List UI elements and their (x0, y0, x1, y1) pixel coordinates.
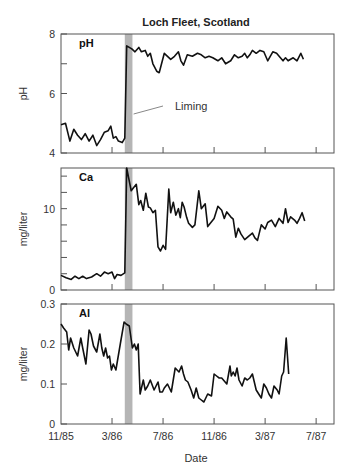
x-axis-label: Date (184, 452, 207, 464)
al-plot-frame (61, 304, 334, 424)
ca-y-axis-label: mg/liter (17, 211, 29, 246)
y-tick-label: 4 (49, 147, 55, 159)
al-y-axis-label: mg/liter (17, 346, 29, 381)
y-tick-label: 0.3 (40, 298, 55, 310)
ph-panel: 468pHpHLiming (17, 28, 334, 159)
chart-figure: Loch Fleet, Scotland 468pHpHLiming 010mg… (0, 0, 351, 473)
ca-plot-frame (61, 168, 334, 290)
ca-panel-label: Ca (79, 171, 94, 183)
liming-band (125, 304, 133, 424)
al-series-line (61, 322, 289, 402)
ca-panel: 010mg/literCa (17, 168, 334, 296)
y-tick-label: 0.1 (40, 378, 55, 390)
x-tick-label: 7/87 (306, 430, 327, 442)
al-panel: 00.10.20.3mg/literAl11/853/867/8611/863/… (17, 298, 334, 442)
ca-series-line (61, 168, 305, 279)
y-tick-label: 8 (49, 28, 55, 40)
liming-annotation: Liming (175, 100, 207, 112)
ph-series-line (61, 46, 303, 146)
liming-annotation-pointer (134, 106, 163, 114)
y-tick-label: 6 (49, 88, 55, 100)
y-tick-label: 0 (49, 418, 55, 430)
y-tick-label: 10 (43, 203, 55, 215)
ph-panel-label: pH (79, 37, 94, 49)
y-tick-label: 0 (49, 284, 55, 296)
chart-title: Loch Fleet, Scotland (142, 16, 250, 28)
y-tick-label: 0.2 (40, 338, 55, 350)
x-tick-label: 7/86 (153, 430, 174, 442)
x-tick-label: 3/86 (102, 430, 123, 442)
ph-y-axis-label: pH (17, 87, 29, 100)
x-tick-label: 11/85 (48, 430, 74, 442)
al-panel-label: Al (79, 307, 90, 319)
x-tick-label: 3/87 (255, 430, 276, 442)
x-tick-label: 11/86 (201, 430, 227, 442)
